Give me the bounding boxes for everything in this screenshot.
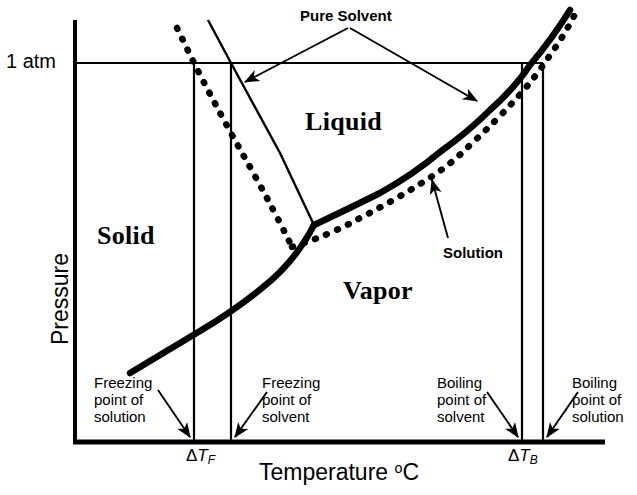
callout-solution: Solution bbox=[443, 245, 503, 262]
solution-arrow bbox=[432, 180, 448, 238]
annotation-line: Boiling bbox=[572, 374, 617, 391]
delta-tb-marker: ΔTB bbox=[508, 446, 538, 467]
annotation-line: solution bbox=[94, 408, 146, 425]
pure-solvent-arrow-left bbox=[245, 28, 348, 82]
delta-t-letter: T bbox=[197, 446, 207, 465]
annotation-line: Freezing bbox=[94, 374, 152, 391]
annotation-line: point of bbox=[437, 391, 486, 408]
annotation-freezing-point-solution: Freezingpoint ofsolution bbox=[94, 375, 152, 425]
delta-t-letter: T bbox=[519, 446, 529, 465]
annotation-freezing-point-solvent: Freezingpoint ofsolvent bbox=[262, 375, 320, 425]
annotation-line: Boiling bbox=[437, 374, 482, 391]
delta-t-subscript: B bbox=[530, 453, 538, 467]
freezing-solution-arrow bbox=[158, 390, 190, 437]
pure-solvent-sublimation-curve bbox=[130, 225, 314, 373]
annotation-line: point of bbox=[572, 391, 621, 408]
annotation-line: solution bbox=[572, 408, 624, 425]
delta-t-subscript: F bbox=[208, 453, 215, 467]
pure-solvent-arrow-right bbox=[350, 28, 477, 101]
x-axis-label-text: Temperature bbox=[259, 459, 395, 485]
boiling-solvent-arrow bbox=[487, 392, 518, 437]
y-tick-label-1atm: 1 atm bbox=[6, 50, 56, 72]
phase-label-liquid: Liquid bbox=[305, 107, 382, 136]
annotation-line: solvent bbox=[262, 408, 310, 425]
x-axis-label-unit: C bbox=[402, 459, 419, 485]
annotation-line: solvent bbox=[437, 408, 485, 425]
delta-tf-marker: ΔTF bbox=[186, 446, 215, 467]
delta-symbol: Δ bbox=[186, 446, 197, 465]
callout-pure-solvent: Pure Solvent bbox=[300, 8, 392, 25]
annotation-boiling-point-solvent: Boilingpoint ofsolvent bbox=[437, 375, 486, 425]
annotation-boiling-point-solution: Boilingpoint ofsolution bbox=[572, 375, 624, 425]
annotation-line: Freezing bbox=[262, 374, 320, 391]
phase-diagram-figure: 1 atm Pressure Temperature oC Solid Liqu… bbox=[0, 0, 637, 495]
delta-symbol: Δ bbox=[508, 446, 519, 465]
phase-label-vapor: Vapor bbox=[343, 276, 413, 305]
annotation-line: point of bbox=[94, 391, 143, 408]
phase-label-solid: Solid bbox=[97, 221, 155, 250]
y-axis-label: Pressure bbox=[48, 253, 74, 345]
x-axis-label: Temperature oC bbox=[259, 460, 419, 486]
pure-solvent-curves bbox=[130, 10, 570, 373]
annotation-line: point of bbox=[262, 391, 311, 408]
